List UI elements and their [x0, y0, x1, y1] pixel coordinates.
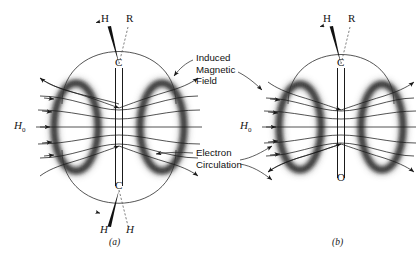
- panel-b-caption: (b): [332, 238, 343, 248]
- panel-a-label-h-bottom-left: H: [100, 224, 108, 235]
- panel-b-label-o: O: [337, 172, 345, 183]
- panel-b-label-c: C: [337, 57, 344, 68]
- panel-a-h0-subscript: 0: [22, 126, 26, 134]
- leader-induced-right: [238, 72, 262, 90]
- induced-line-2: Magnetic: [196, 64, 235, 76]
- leader-electron-right: [240, 164, 272, 180]
- panel-a-caption: (a): [109, 238, 120, 248]
- figure-canvas: H R C C H H H0 (a) H R C O H0 (b) Induce…: [0, 0, 416, 263]
- panel-b-double-bond: [338, 68, 345, 178]
- annotation-induced-magnetic-field: Induced Magnetic Field: [196, 52, 235, 87]
- panel-a-label-c-upper: C: [115, 57, 122, 68]
- electron-line-2: Circulation: [196, 159, 242, 171]
- panel-a-bottom-bonds: [108, 190, 128, 227]
- panel-a-graphics: [36, 22, 202, 228]
- annotation-electron-circulation: Electron Circulation: [196, 147, 242, 170]
- panel-a-label-r-top: R: [126, 13, 133, 24]
- figure-graphics: [0, 0, 416, 263]
- electron-line-1: Electron: [196, 147, 242, 159]
- panel-a-h0-letter: H: [14, 119, 22, 131]
- panel-a-applied-field-label: H0: [14, 120, 25, 134]
- panel-a-label-c-lower: C: [115, 180, 122, 191]
- panel-b-applied-field-label: H0: [240, 120, 251, 134]
- panel-b-label-r-top: R: [348, 13, 355, 24]
- panel-b-label-h-top: H: [323, 13, 331, 24]
- panel-b-h0-subscript: 0: [248, 126, 252, 134]
- panel-b-h0-letter: H: [240, 119, 248, 131]
- leader-induced-left: [174, 60, 193, 76]
- induced-line-1: Induced: [196, 52, 235, 64]
- leader-electron-right-2: [240, 146, 272, 160]
- panel-b-graphics: [262, 26, 416, 179]
- panel-a-label-h-top: H: [101, 13, 109, 24]
- induced-line-3: Field: [196, 75, 235, 87]
- panel-a-label-h-bottom-right: H: [126, 224, 134, 235]
